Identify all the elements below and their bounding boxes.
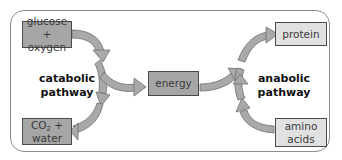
protein-box: protein <box>275 22 327 46</box>
amino-acids-box: amino acids <box>275 118 327 147</box>
glucose-oxygen-line1: glucose + <box>27 15 67 40</box>
anabolic-pathway-label: anabolic pathway <box>255 72 313 100</box>
amino-acids-line2: acids <box>287 133 314 145</box>
energy-label: energy <box>155 77 192 90</box>
amino-acids-line1: amino <box>285 120 318 132</box>
co2-water-line2: water <box>32 132 62 144</box>
protein-label: protein <box>282 28 319 41</box>
glucose-oxygen-line2: oxygen <box>28 41 66 53</box>
arrow-to-energy <box>100 72 146 96</box>
co2-water-line1: CO2 + <box>31 119 63 131</box>
co2-water-box: CO2 + water <box>22 118 72 145</box>
energy-box: energy <box>148 71 199 96</box>
catabolic-pathway-label: catabolic pathway <box>38 72 96 100</box>
glucose-oxygen-box: glucose + oxygen <box>22 21 72 48</box>
